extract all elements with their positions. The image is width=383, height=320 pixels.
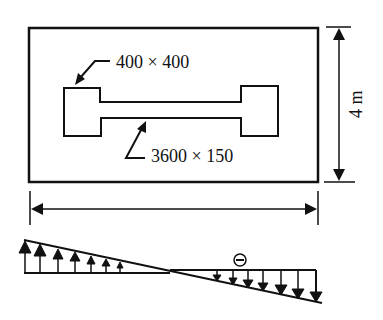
column-leader bbox=[75, 61, 110, 85]
wall-size-label: 3600 × 150 bbox=[151, 146, 233, 166]
column-size-label: 400 × 400 bbox=[116, 52, 189, 72]
pressure-diagram bbox=[19, 240, 322, 303]
wall-leader bbox=[126, 121, 146, 158]
height-dimension-label: 4 m bbox=[346, 90, 366, 118]
negative-sign-icon bbox=[234, 254, 246, 266]
foundation-diagram: 400 × 400 3600 × 150 4 m bbox=[0, 0, 383, 320]
column-wall-outline bbox=[64, 86, 278, 136]
width-dimension bbox=[30, 191, 318, 225]
downward-pressure-arrows bbox=[213, 270, 322, 302]
